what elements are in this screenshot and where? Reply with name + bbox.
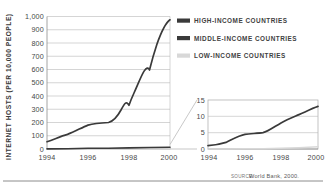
inset-ytick-5: 5	[201, 128, 205, 137]
inset-series-middle-income	[208, 106, 318, 145]
main-ytick-800: 800	[31, 39, 44, 48]
main-ytick-700: 700	[31, 52, 44, 61]
legend-item-high-income[interactable]: HIGH-INCOME COUNTRIES	[177, 17, 288, 24]
main-xtick-1994: 1994	[39, 153, 56, 162]
main-ytick-300: 300	[31, 105, 44, 114]
legend-label-middle-income: MIDDLE-INCOME COUNTRIES	[194, 35, 297, 42]
inset-x-tick-labels: 1994 1996 1998 2000	[201, 153, 325, 162]
main-chart-gridlines	[47, 17, 170, 136]
inset-xtick-1994: 1994	[201, 153, 218, 162]
main-y-axis-title: INTERNET HOSTS (PER 10,000 PEOPLE)	[5, 13, 13, 160]
inset-xtick-2000: 2000	[308, 153, 325, 162]
legend-swatch-high-income	[177, 19, 190, 23]
main-ytick-200: 200	[31, 118, 44, 127]
inset-ytick-10: 10	[197, 112, 205, 121]
main-xtick-1998: 1998	[121, 153, 138, 162]
main-xtick-2000: 2000	[161, 153, 178, 162]
callout-line-upper	[170, 100, 197, 145]
inset-ytick-15: 15	[197, 96, 205, 105]
inset-chart: 0 5 10 15 1994 1996 1998 2000	[197, 96, 325, 162]
legend-label-low-income: LOW-INCOME COUNTRIES	[194, 52, 286, 59]
chart-legend: HIGH-INCOME COUNTRIES MIDDLE-INCOME COUN…	[177, 17, 297, 59]
inset-xtick-1998: 1998	[273, 153, 290, 162]
figure-container: INTERNET HOSTS (PER 10,000 PEOPLE) 0 100…	[0, 0, 327, 193]
legend-label-high-income: HIGH-INCOME COUNTRIES	[194, 17, 288, 24]
main-x-tick-labels: 1994 1996 1998 2000	[39, 153, 178, 162]
main-series-high-income	[47, 20, 170, 142]
main-chart-series	[47, 20, 170, 149]
legend-item-low-income[interactable]: LOW-INCOME COUNTRIES	[177, 52, 286, 59]
main-ytick-600: 600	[31, 65, 44, 74]
legend-swatch-low-income	[177, 54, 190, 58]
inset-chart-series	[208, 106, 318, 149]
inset-y-tick-labels: 0 5 10 15	[197, 96, 205, 154]
main-ytick-400: 400	[31, 92, 44, 101]
main-ytick-900: 900	[31, 25, 44, 34]
legend-swatch-middle-income	[177, 36, 190, 40]
legend-item-middle-income[interactable]: MIDDLE-INCOME COUNTRIES	[177, 35, 297, 42]
inset-xtick-1996: 1996	[237, 153, 254, 162]
main-ytick-100: 100	[31, 131, 44, 140]
chart-svg: INTERNET HOSTS (PER 10,000 PEOPLE) 0 100…	[0, 0, 327, 193]
main-xtick-1996: 1996	[80, 153, 97, 162]
inset-frame	[208, 100, 318, 149]
main-ytick-500: 500	[31, 78, 44, 87]
main-y-axis-title-text: INTERNET HOSTS (PER 10,000 PEOPLE)	[5, 13, 13, 160]
main-y-tick-labels: 0 100 200 300 400 500 600 700 800 900 1,…	[25, 12, 44, 154]
source-note-text: World Bank, 2000.	[249, 173, 299, 179]
source-note: SOURCE: World Bank, 2000.	[231, 173, 299, 179]
inset-callout-lines	[170, 100, 197, 149]
main-ytick-1000: 1,000	[25, 12, 44, 21]
